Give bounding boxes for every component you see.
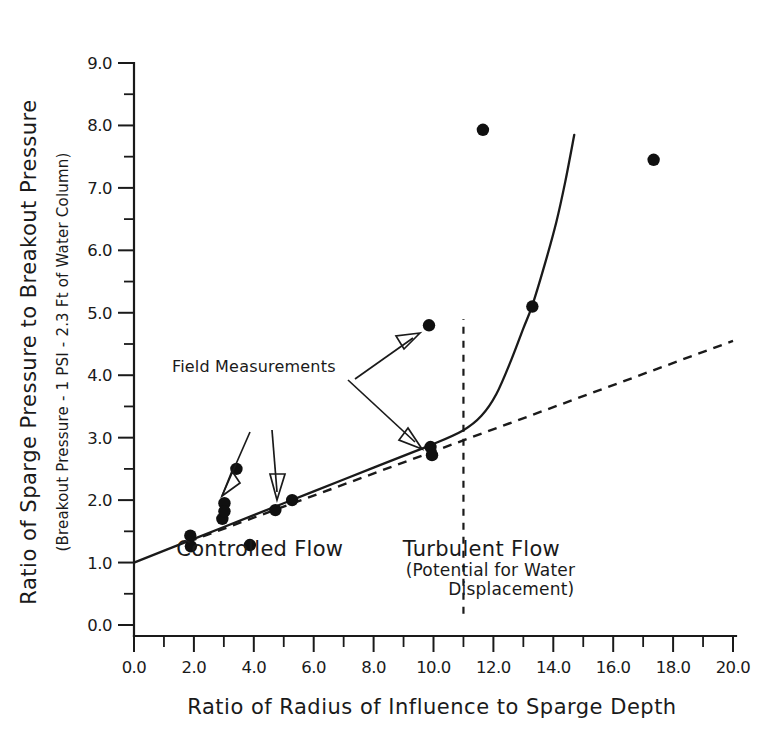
- x-axis-ticks: [134, 636, 733, 652]
- x-tick-label: 20.0: [716, 658, 751, 677]
- y-axis-subtitle: (Breakout Pressure - 1 PSI - 2.3 Ft of W…: [54, 152, 72, 551]
- x-tick-label: 8.0: [361, 658, 386, 677]
- x-tick-label: 0.0: [122, 658, 147, 677]
- turbulent-flow-note-line1-label: (Potential for Water: [406, 560, 576, 580]
- x-tick-label: 18.0: [656, 658, 691, 677]
- data-points-layer: [184, 124, 660, 553]
- y-tick-label: 8.0: [87, 116, 112, 135]
- data-point: [526, 300, 538, 312]
- breakout-fit-curve: [134, 135, 574, 563]
- field-measurements-arrow-upper-right: [355, 338, 413, 379]
- field-measurements-arrowhead-middle: [270, 474, 285, 500]
- y-axis-title: Ratio of Sparge Pressure to Breakout Pre…: [17, 99, 41, 604]
- data-point: [218, 505, 230, 517]
- x-tick-label: 10.0: [416, 658, 451, 677]
- data-point: [647, 154, 659, 166]
- fit-curve-layer: [134, 135, 574, 563]
- field-measurements-label: Field Measurements: [172, 357, 336, 376]
- x-tick-label: 14.0: [536, 658, 571, 677]
- y-tick-label: 3.0: [87, 429, 112, 448]
- chart-figure: 0.01.02.03.04.05.06.07.08.09.0 0.02.04.0…: [0, 0, 771, 744]
- data-point: [423, 319, 435, 331]
- x-tick-label: 2.0: [182, 658, 207, 677]
- y-tick-label: 9.0: [87, 54, 112, 73]
- x-tick-label: 4.0: [241, 658, 266, 677]
- y-tick-label: 4.0: [87, 366, 112, 385]
- y-tick-label: 5.0: [87, 304, 112, 323]
- y-tick-label: 0.0: [87, 616, 112, 635]
- x-tick-label: 12.0: [476, 658, 511, 677]
- x-axis-title: Ratio of Radius of Influence to Sparge D…: [187, 695, 676, 719]
- y-axis-ticks: [118, 63, 134, 625]
- x-axis-tick-labels: 0.02.04.06.08.010.012.014.016.018.020.0: [122, 658, 751, 677]
- chart-annotations-layer: Field MeasurementsControlled FlowTurbule…: [172, 357, 575, 599]
- y-tick-label: 6.0: [87, 241, 112, 260]
- scatter-plot-svg: 0.01.02.03.04.05.06.07.08.09.0 0.02.04.0…: [0, 0, 771, 744]
- controlled-flow-label: Controlled Flow: [176, 537, 343, 561]
- data-point: [286, 494, 298, 506]
- y-tick-label: 7.0: [87, 179, 112, 198]
- data-point: [477, 124, 489, 136]
- y-tick-label: 1.0: [87, 554, 112, 573]
- y-tick-label: 2.0: [87, 491, 112, 510]
- turbulent-flow-note-line2-label: Displacement): [448, 579, 574, 599]
- data-point: [269, 504, 281, 516]
- turbulent-flow-label: Turbulent Flow: [402, 537, 560, 561]
- x-tick-label: 16.0: [596, 658, 631, 677]
- data-point: [426, 449, 438, 461]
- y-axis-tick-labels: 0.01.02.03.04.05.06.07.08.09.0: [87, 54, 112, 635]
- x-tick-label: 6.0: [301, 658, 326, 677]
